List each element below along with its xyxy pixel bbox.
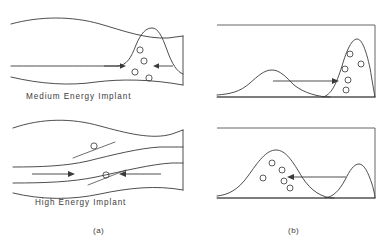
- arrow-left: [287, 174, 346, 180]
- dopant-circle: [137, 47, 143, 53]
- panel-b-medium-energy-profile: [217, 25, 375, 97]
- arrow-right: [32, 171, 75, 177]
- dopant-circle: [269, 160, 275, 166]
- dopant-circle: [358, 61, 364, 67]
- panel-b-high-energy-profile: [217, 128, 375, 198]
- dopant-circle: [132, 69, 138, 75]
- dopant-profile-hump: [118, 28, 183, 74]
- dopant-circle: [347, 51, 353, 57]
- shallow-gaussian-curve: [217, 70, 330, 97]
- dopant-circle: [287, 185, 293, 191]
- dopant-circle: [146, 75, 152, 81]
- dopant-circle: [343, 87, 349, 93]
- dopant-circle: [91, 143, 97, 149]
- channel-upper-boundary: [11, 18, 183, 38]
- channel-inner-upper-curve: [13, 147, 183, 167]
- dopant-circle: [342, 66, 348, 72]
- dopant-circle: [279, 167, 285, 173]
- shallow-narrow-gaussian-curve: [325, 164, 375, 198]
- high-energy-implant-label: High Energy Implant: [35, 198, 126, 207]
- caption-b: (b): [288, 226, 299, 235]
- panel-a-medium-energy-implant: Medium Energy Implant: [11, 18, 183, 101]
- arrow-right: [104, 63, 126, 69]
- dopant-circle: [281, 178, 287, 184]
- caption-a: (a): [93, 226, 104, 235]
- channel-lower-boundary: [13, 187, 183, 198]
- dopant-circle: [260, 175, 266, 181]
- channel-upper-boundary: [13, 120, 183, 136]
- dopant-circle: [141, 58, 147, 64]
- panel-a-high-energy-implant: High Energy Implant: [13, 120, 183, 207]
- arrow-right: [273, 78, 339, 84]
- figure-root: Medium Energy Implant: [0, 0, 385, 252]
- arrow-left: [119, 171, 161, 177]
- plot-frame: [217, 128, 375, 198]
- arrow-left: [153, 63, 173, 69]
- channel-inner-lower-curve: [13, 163, 183, 183]
- medium-energy-implant-label: Medium Energy Implant: [26, 92, 131, 101]
- dopant-circle: [345, 77, 351, 83]
- deep-broad-gaussian-curve: [217, 150, 334, 198]
- deep-gaussian-curve: [323, 39, 375, 97]
- channel-lower-boundary: [11, 77, 183, 85]
- figure-canvas: Medium Energy Implant: [0, 0, 385, 252]
